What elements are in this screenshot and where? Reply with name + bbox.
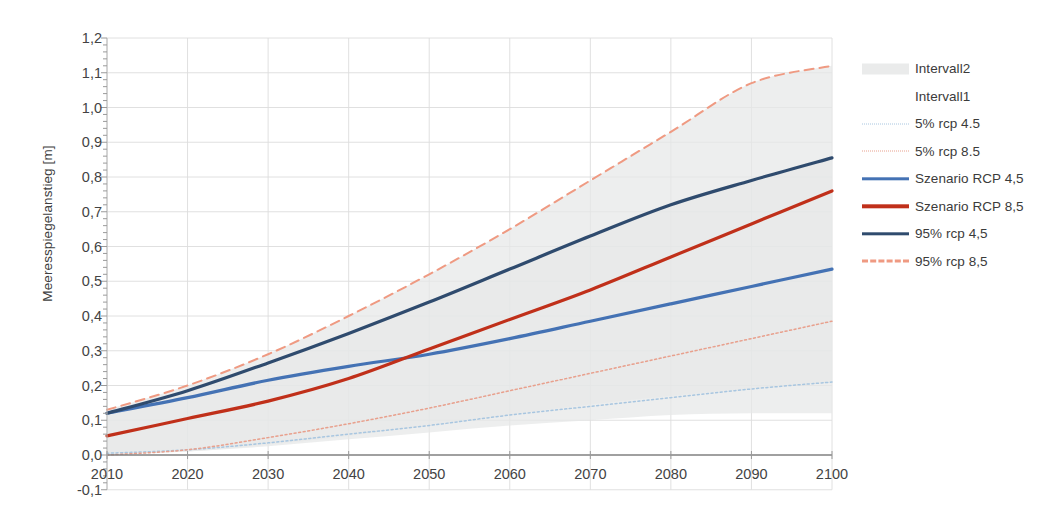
legend-item[interactable]: Intervall1 <box>862 83 1037 111</box>
y-tick-label: 0,5 <box>58 273 102 289</box>
legend-label: 5% rcp 8.5 <box>915 144 980 159</box>
y-tick-label: 0,3 <box>58 343 102 359</box>
x-axis-ticks: 2010202020302040205020602070208020902100 <box>0 466 1042 496</box>
y-tick-label: 0,1 <box>58 412 102 428</box>
legend-swatch-icon <box>862 227 909 241</box>
y-tick-label: 0,7 <box>58 204 102 220</box>
x-tick-label: 2030 <box>233 466 303 482</box>
legend-item[interactable]: 5% rcp 4.5 <box>862 110 1037 138</box>
x-tick-label: 2100 <box>797 466 867 482</box>
legend-item[interactable]: Szenario RCP 4,5 <box>862 165 1037 193</box>
legend-swatch-icon <box>862 172 909 186</box>
legend-item[interactable]: 95% rcp 8,5 <box>862 248 1037 276</box>
chart-legend: Intervall2Intervall15% rcp 4.55% rcp 8.5… <box>862 55 1037 275</box>
legend-swatch-icon <box>862 62 909 76</box>
x-tick-label: 2020 <box>153 466 223 482</box>
legend-label: Szenario RCP 8,5 <box>915 199 1024 214</box>
legend-swatch-icon <box>862 89 909 103</box>
legend-item[interactable]: 95% rcp 4,5 <box>862 220 1037 248</box>
x-tick-label: 2090 <box>716 466 786 482</box>
legend-swatch-icon <box>862 144 909 158</box>
x-tick-label: 2070 <box>555 466 625 482</box>
interval-bands <box>107 66 832 455</box>
sea-level-rise-chart: Meeresspiegelanstieg [m] -0,10,00,10,20,… <box>0 0 1042 519</box>
y-tick-label: 0,2 <box>58 378 102 394</box>
x-tick-label: 2040 <box>314 466 384 482</box>
legend-swatch-icon <box>862 254 909 268</box>
legend-label: Szenario RCP 4,5 <box>915 171 1024 186</box>
y-tick-label: 0,4 <box>58 308 102 324</box>
y-tick-label: 1,2 <box>58 30 102 46</box>
y-tick-label: 0,9 <box>58 134 102 150</box>
y-axis-ticks: -0,10,00,10,20,30,40,50,60,70,80,91,01,1… <box>52 0 102 519</box>
x-tick-label: 2050 <box>394 466 464 482</box>
y-tick-label: 0,0 <box>58 447 102 463</box>
x-tick-label: 2060 <box>475 466 545 482</box>
legend-label: 5% rcp 4.5 <box>915 116 980 131</box>
y-tick-label: 0,8 <box>58 169 102 185</box>
legend-label: 95% rcp 4,5 <box>915 226 988 241</box>
legend-item[interactable]: 5% rcp 8.5 <box>862 138 1037 166</box>
legend-item[interactable]: Szenario RCP 8,5 <box>862 193 1037 221</box>
legend-label: 95% rcp 8,5 <box>915 254 988 269</box>
x-tick-label: 2010 <box>72 466 142 482</box>
y-tick-label: 1,1 <box>58 65 102 81</box>
legend-item[interactable]: Intervall2 <box>862 55 1037 83</box>
legend-swatch-icon <box>862 199 909 213</box>
y-tick-label: 1,0 <box>58 100 102 116</box>
legend-swatch-icon <box>862 117 909 131</box>
y-tick-label: 0,6 <box>58 239 102 255</box>
x-tick-label: 2080 <box>636 466 706 482</box>
legend-label: Intervall2 <box>915 61 970 76</box>
legend-label: Intervall1 <box>915 89 970 104</box>
